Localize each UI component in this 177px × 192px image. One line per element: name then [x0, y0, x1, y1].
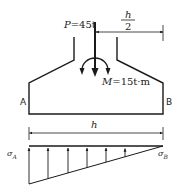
half-width-numerator: h	[125, 10, 131, 20]
moment-arrowhead-right-icon	[106, 68, 111, 75]
moment-value: =15t·m	[112, 76, 150, 87]
load-label: P=45t	[64, 20, 96, 30]
load-value: =45t	[71, 19, 96, 30]
sigma-b-label: σB	[158, 150, 168, 160]
load-symbol: P	[64, 19, 71, 30]
moment-symbol: M	[102, 76, 112, 87]
pressure-diagram	[29, 146, 163, 184]
moment-label: M=15t·m	[102, 77, 150, 87]
load-arrow-icon	[92, 22, 99, 77]
pressure-arrows	[29, 148, 125, 184]
sigma-a-label: σA	[7, 150, 17, 160]
footing-diagram: P=45t h 2 M=15t·m A B h σA σB	[0, 0, 177, 192]
width-label: h	[91, 120, 97, 130]
edge-label-a: A	[20, 98, 26, 107]
edge-label-b: B	[166, 98, 172, 107]
moment-arrowhead-left-icon	[80, 68, 85, 75]
half-width-denominator: 2	[125, 22, 131, 32]
